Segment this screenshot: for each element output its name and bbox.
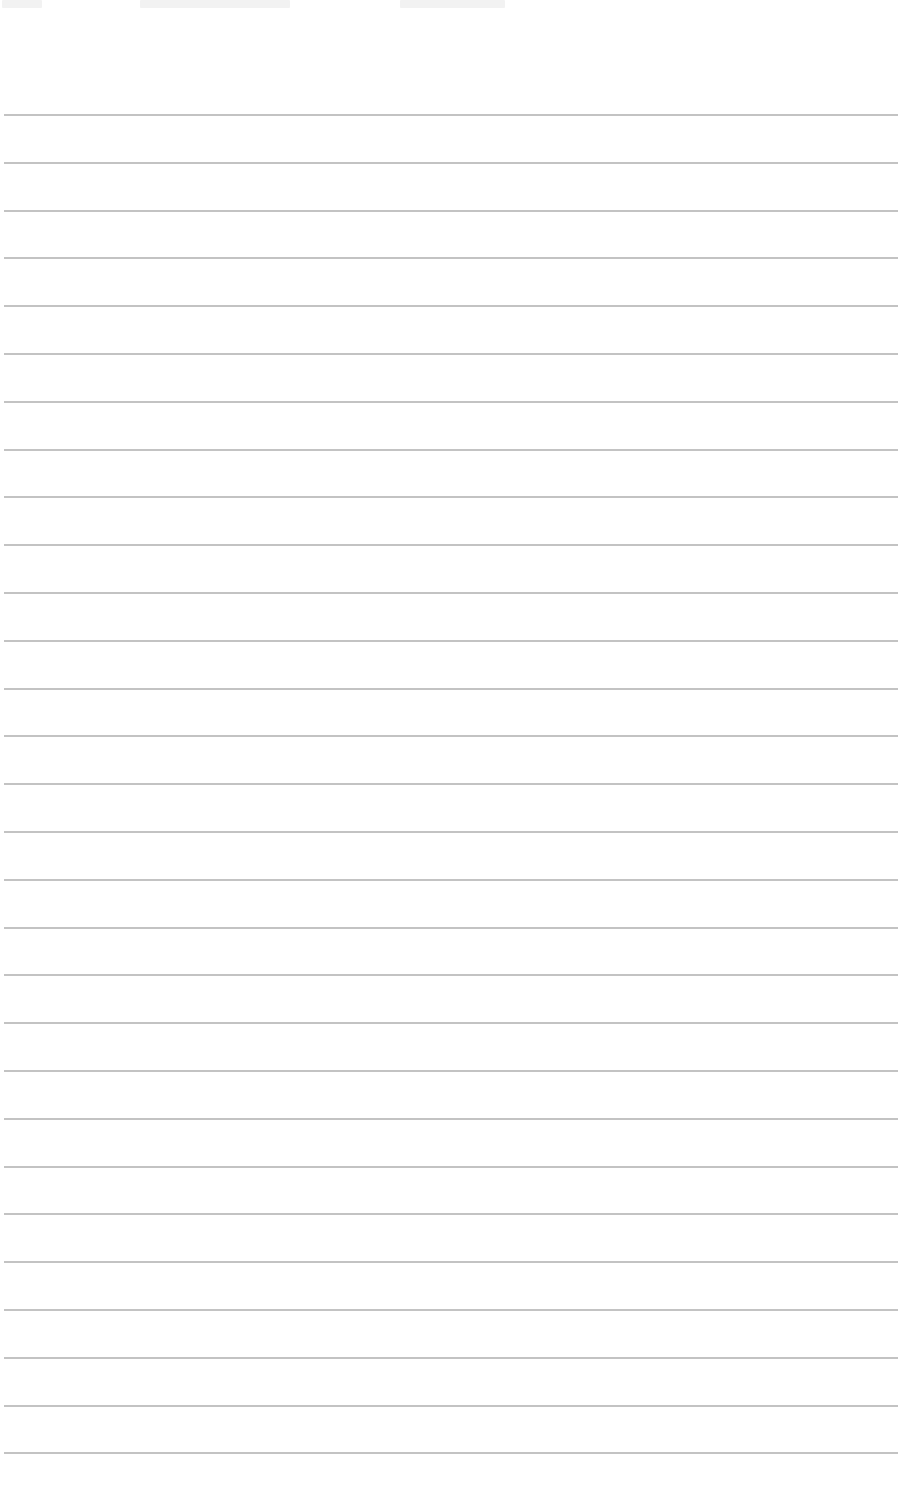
header-fragment xyxy=(2,0,42,8)
ruled-line xyxy=(4,1070,898,1072)
ruled-line xyxy=(4,735,898,737)
header-fragment xyxy=(140,0,290,8)
ruled-line xyxy=(4,1166,898,1168)
ruled-line xyxy=(4,927,898,929)
ruled-line xyxy=(4,640,898,642)
ruled-line xyxy=(4,879,898,881)
ruled-line xyxy=(4,1357,898,1359)
ruled-line xyxy=(4,592,898,594)
ruled-line xyxy=(4,974,898,976)
ruled-line xyxy=(4,831,898,833)
ruled-line xyxy=(4,114,898,116)
ruled-line xyxy=(4,688,898,690)
ruled-line xyxy=(4,1118,898,1120)
header-fragment xyxy=(400,0,505,8)
ruled-line xyxy=(4,1261,898,1263)
ruled-line xyxy=(4,544,898,546)
ruled-line xyxy=(4,1452,898,1454)
ruled-line xyxy=(4,783,898,785)
ruled-line xyxy=(4,496,898,498)
ruled-line xyxy=(4,1022,898,1024)
ruled-line xyxy=(4,257,898,259)
ruled-line xyxy=(4,1309,898,1311)
ruled-line xyxy=(4,401,898,403)
ruled-line xyxy=(4,1405,898,1407)
ruled-line xyxy=(4,353,898,355)
ruled-line xyxy=(4,162,898,164)
ruled-line xyxy=(4,305,898,307)
ruled-line xyxy=(4,210,898,212)
ruled-line xyxy=(4,449,898,451)
ruled-line xyxy=(4,1213,898,1215)
